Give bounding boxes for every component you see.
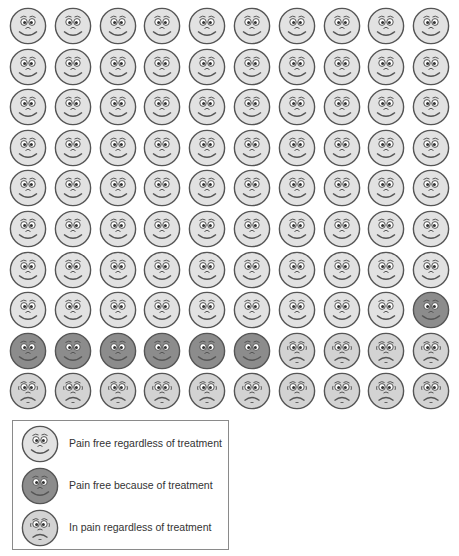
sad-face-icon xyxy=(323,372,361,410)
smiling-face-icon xyxy=(21,425,59,463)
smiling-face-icon xyxy=(323,169,361,207)
sad-face-icon xyxy=(21,509,59,547)
smiling-face-icon xyxy=(188,169,226,207)
smiling-face-icon xyxy=(233,88,271,126)
smiling-face-dark-icon xyxy=(188,332,226,370)
smiling-face-icon xyxy=(323,48,361,86)
sad-face-icon xyxy=(233,372,271,410)
smiling-face-icon xyxy=(233,291,271,329)
sad-face-icon xyxy=(143,372,181,410)
smiling-face-icon xyxy=(278,251,316,289)
smiling-face-icon xyxy=(99,169,137,207)
smiling-face-icon xyxy=(233,48,271,86)
sad-face-icon xyxy=(323,332,361,370)
smiling-face-icon xyxy=(233,129,271,167)
smiling-face-icon xyxy=(54,88,92,126)
smiling-face-icon xyxy=(143,291,181,329)
sad-face-icon xyxy=(278,332,316,370)
smiling-face-icon xyxy=(54,291,92,329)
sad-face-icon xyxy=(278,372,316,410)
smiling-face-dark-icon xyxy=(54,332,92,370)
smiling-face-icon xyxy=(188,251,226,289)
smiling-face-icon xyxy=(188,88,226,126)
smiling-face-icon xyxy=(143,88,181,126)
smiling-face-icon xyxy=(278,169,316,207)
smiling-face-icon xyxy=(99,88,137,126)
smiling-face-icon xyxy=(143,210,181,248)
smiling-face-icon xyxy=(323,210,361,248)
smiling-face-icon xyxy=(323,88,361,126)
smiling-face-icon xyxy=(99,7,137,45)
sad-face-icon xyxy=(188,372,226,410)
smiling-face-icon xyxy=(9,291,47,329)
legend-item-pain-free-regardless: Pain free regardless of treatment xyxy=(13,425,228,465)
smiling-face-icon xyxy=(412,48,450,86)
smiling-face-icon xyxy=(54,7,92,45)
sad-face-icon xyxy=(367,332,405,370)
smiling-face-icon xyxy=(9,129,47,167)
smiling-face-icon xyxy=(367,7,405,45)
smiling-face-icon xyxy=(278,210,316,248)
sad-face-icon xyxy=(9,372,47,410)
smiling-face-icon xyxy=(323,291,361,329)
smiling-face-icon xyxy=(367,129,405,167)
smiling-face-icon xyxy=(9,169,47,207)
smiling-face-icon xyxy=(188,129,226,167)
smiling-face-icon xyxy=(233,169,271,207)
smiling-face-icon xyxy=(233,7,271,45)
smiling-face-icon xyxy=(323,7,361,45)
smiling-face-icon xyxy=(99,129,137,167)
smiling-face-icon xyxy=(99,210,137,248)
smiling-face-icon xyxy=(188,7,226,45)
smiling-face-icon xyxy=(278,291,316,329)
pictogram-grid xyxy=(0,0,459,415)
legend-label: Pain free because of treatment xyxy=(69,479,213,491)
smiling-face-icon xyxy=(278,88,316,126)
smiling-face-icon xyxy=(143,129,181,167)
smiling-face-icon xyxy=(9,251,47,289)
sad-face-icon xyxy=(412,372,450,410)
smiling-face-icon xyxy=(233,210,271,248)
smiling-face-dark-icon xyxy=(412,291,450,329)
smiling-face-icon xyxy=(278,129,316,167)
smiling-face-icon xyxy=(143,7,181,45)
legend-label: Pain free regardless of treatment xyxy=(69,437,222,449)
smiling-face-icon xyxy=(9,88,47,126)
smiling-face-dark-icon xyxy=(143,332,181,370)
smiling-face-dark-icon xyxy=(233,332,271,370)
legend-label: In pain regardless of treatment xyxy=(69,521,211,533)
smiling-face-icon xyxy=(323,251,361,289)
smiling-face-icon xyxy=(412,7,450,45)
smiling-face-icon xyxy=(188,291,226,329)
sad-face-icon xyxy=(99,372,137,410)
smiling-face-icon xyxy=(367,291,405,329)
smiling-face-icon xyxy=(9,210,47,248)
smiling-face-icon xyxy=(54,251,92,289)
legend-item-in-pain-regardless: In pain regardless of treatment xyxy=(13,509,228,549)
smiling-face-icon xyxy=(412,169,450,207)
smiling-face-icon xyxy=(412,251,450,289)
smiling-face-icon xyxy=(99,251,137,289)
sad-face-icon xyxy=(367,372,405,410)
smiling-face-icon xyxy=(143,251,181,289)
smiling-face-icon xyxy=(54,48,92,86)
smiling-face-icon xyxy=(188,48,226,86)
smiling-face-icon xyxy=(367,210,405,248)
smiling-face-icon xyxy=(54,129,92,167)
smiling-face-dark-icon xyxy=(99,332,137,370)
smiling-face-icon xyxy=(412,210,450,248)
smiling-face-icon xyxy=(9,48,47,86)
smiling-face-icon xyxy=(367,251,405,289)
smiling-face-icon xyxy=(99,291,137,329)
smiling-face-dark-icon xyxy=(21,467,59,505)
legend-item-pain-free-because-treatment: Pain free because of treatment xyxy=(13,467,228,507)
smiling-face-icon xyxy=(143,169,181,207)
smiling-face-icon xyxy=(367,48,405,86)
smiling-face-icon xyxy=(278,48,316,86)
sad-face-icon xyxy=(412,332,450,370)
smiling-face-icon xyxy=(323,129,361,167)
smiling-face-dark-icon xyxy=(9,332,47,370)
smiling-face-icon xyxy=(54,210,92,248)
smiling-face-icon xyxy=(412,88,450,126)
smiling-face-icon xyxy=(233,251,271,289)
